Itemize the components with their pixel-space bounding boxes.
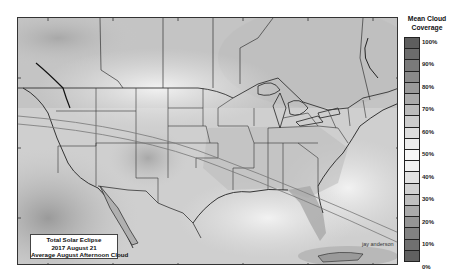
cloud-cover-map [17,17,398,265]
legend-label: 40% [422,174,434,180]
caption-date: 2017 August 21 [31,244,117,252]
legend-segment [405,38,419,49]
author-credit: jay anderson [362,241,394,247]
legend-segment [405,150,419,161]
legend-segment [405,139,419,150]
legend-segment [405,195,419,206]
legend-segment [405,60,419,71]
legend-label: 100% [422,39,437,45]
legend-segment [405,105,419,116]
legend-segment [405,161,419,172]
legend-title: Mean Cloud Coverage [400,15,454,32]
legend-segment [405,240,419,251]
legend-segment [405,94,419,105]
legend-segment [405,128,419,139]
legend-labels: 100%90%80%70%60%50%40%30%20%10%0% [422,37,454,262]
map-caption-box: Total Solar Eclipse 2017 August 21 Avera… [30,234,118,259]
caption-subtitle: Average August Afternoon Cloud [31,251,117,259]
legend-segment [405,206,419,217]
legend-segment [405,49,419,60]
legend-color-scale [404,37,420,262]
legend-label: 80% [422,84,434,90]
legend-segment [405,172,419,183]
legend-label: 20% [422,219,434,225]
legend-segment [405,251,419,261]
legend-label: 0% [422,264,431,270]
caption-title: Total Solar Eclipse [31,236,117,244]
legend-label: 50% [422,151,434,157]
legend-segment [405,184,419,195]
legend-label: 30% [422,196,434,202]
legend-label: 10% [422,241,434,247]
map-graphic [18,18,398,265]
legend-segment [405,228,419,239]
legend-label: 70% [422,106,434,112]
legend-label: 90% [422,61,434,67]
legend-segment [405,116,419,127]
legend-segment [405,217,419,228]
legend-segment [405,83,419,94]
legend-label: 60% [422,129,434,135]
legend-segment [405,72,419,83]
